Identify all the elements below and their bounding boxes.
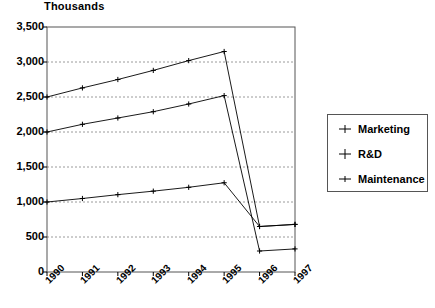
y-axis-tick-label-wrap: 2,000: [0, 126, 44, 137]
data-point-marker: [80, 85, 85, 90]
data-point-marker: [186, 185, 191, 190]
y-axis-tick-label-wrap: 3,000: [0, 56, 44, 67]
chart-figure: Thousands 05001,0001,5002,0002,5003,0003…: [0, 0, 435, 308]
legend-item-maintenance[interactable]: Maintenance: [336, 171, 425, 187]
legend-item-rd[interactable]: R&D: [336, 146, 382, 162]
marker-plus-maintenance: [336, 172, 356, 186]
data-point-marker: [222, 49, 227, 54]
y-axis-tick-label: 3,000: [2, 56, 44, 67]
y-axis-tick-label: 1,500: [2, 161, 44, 172]
data-point-marker: [292, 246, 297, 251]
data-point-marker: [44, 199, 49, 204]
y-axis-tick-label: 0: [2, 266, 44, 277]
y-axis-tick-label-wrap: 1,500: [0, 161, 44, 172]
y-axis-tick-label: 500: [2, 231, 44, 242]
y-axis-tick-label: 3,500: [2, 21, 44, 32]
data-point-marker: [44, 94, 49, 99]
data-point-marker: [80, 122, 85, 127]
chart-legend: Marketing R&D Maintenance: [327, 114, 428, 192]
data-point-marker: [292, 222, 297, 227]
plot-frame: [47, 27, 295, 272]
data-point-marker: [222, 93, 227, 98]
legend-label-rd: R&D: [356, 148, 382, 160]
series-line-r-d: [47, 96, 295, 251]
y-axis-tick-label: 2,000: [2, 126, 44, 137]
y-axis-tick-label-wrap: 500: [0, 231, 44, 242]
data-point-marker: [115, 115, 120, 120]
data-point-marker: [186, 58, 191, 63]
marker-plus-rd: [336, 147, 356, 161]
y-axis-tick-label: 2,500: [2, 91, 44, 102]
data-point-marker: [151, 68, 156, 73]
y-axis-tick-label-wrap: 1,000: [0, 196, 44, 207]
marker-plus-marketing: [336, 122, 356, 136]
y-axis-tick-label-wrap: 3,500: [0, 21, 44, 32]
data-point-marker: [115, 192, 120, 197]
legend-label-marketing: Marketing: [356, 123, 410, 135]
legend-item-marketing[interactable]: Marketing: [336, 121, 410, 137]
y-axis-tick-label: 1,000: [2, 196, 44, 207]
data-point-marker: [115, 77, 120, 82]
data-point-marker: [80, 196, 85, 201]
data-point-marker: [257, 248, 262, 253]
y-axis-tick-label-wrap: 0: [0, 266, 44, 277]
series-line-marketing: [47, 52, 295, 227]
data-point-marker: [44, 129, 49, 134]
legend-label-maintenance: Maintenance: [356, 173, 425, 185]
data-point-marker: [186, 101, 191, 106]
data-point-marker: [151, 109, 156, 114]
y-axis-unit-title: Thousands: [44, 0, 104, 12]
y-axis-tick-label-wrap: 2,500: [0, 91, 44, 102]
data-point-marker: [151, 189, 156, 194]
